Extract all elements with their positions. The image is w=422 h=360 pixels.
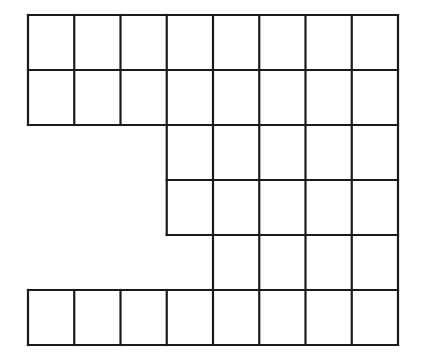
- grid-cell: [167, 70, 213, 125]
- grid-cell: [306, 15, 352, 70]
- grid-cell: [213, 180, 259, 235]
- grid-cell: [213, 125, 259, 180]
- grid-cell: [121, 70, 167, 125]
- grid-cell: [352, 15, 398, 70]
- grid-cell: [259, 15, 305, 70]
- grid-cell: [213, 235, 259, 290]
- grid-cell: [167, 15, 213, 70]
- grid-cell: [259, 125, 305, 180]
- grid-cell: [213, 290, 259, 345]
- grid-cell: [259, 290, 305, 345]
- figure-root: [0, 0, 422, 360]
- grid-cell: [213, 70, 259, 125]
- grid-cell: [74, 15, 120, 70]
- grid-cell: [28, 70, 74, 125]
- grid-cell: [352, 125, 398, 180]
- grid-cell: [352, 180, 398, 235]
- grid-cell: [74, 290, 120, 345]
- grid-diagram: [0, 0, 422, 360]
- grid-cell: [28, 290, 74, 345]
- grid-cell: [352, 70, 398, 125]
- grid-cell: [28, 15, 74, 70]
- grid-cell: [259, 70, 305, 125]
- grid-cell: [167, 290, 213, 345]
- grid-cell: [121, 290, 167, 345]
- grid-cell: [306, 290, 352, 345]
- grid-cell: [167, 180, 213, 235]
- grid-cell: [352, 290, 398, 345]
- grid-cell: [306, 125, 352, 180]
- grid-cell: [213, 15, 259, 70]
- grid-cell: [352, 235, 398, 290]
- grid-cell: [306, 180, 352, 235]
- grid-cell: [74, 70, 120, 125]
- grid-cell: [121, 15, 167, 70]
- grid-cell: [167, 125, 213, 180]
- grid-cell: [306, 235, 352, 290]
- grid-cell: [259, 235, 305, 290]
- grid-cell: [306, 70, 352, 125]
- grid-cell: [259, 180, 305, 235]
